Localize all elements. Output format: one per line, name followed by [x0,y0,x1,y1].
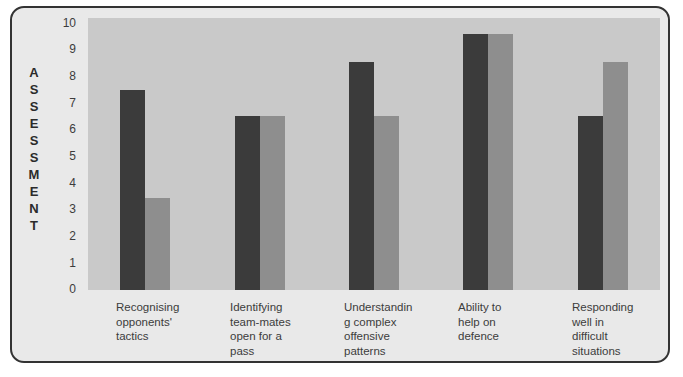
x-category-label-line: difficult [572,329,658,344]
y-axis-title-letter: M [22,166,46,183]
y-axis-title-letter: E [22,183,46,200]
x-category-label-line: Responding [572,300,658,315]
x-category-label-line: g complex [344,315,430,330]
bar-2-category-3 [374,116,399,290]
y-axis-title-letter: T [22,217,46,234]
x-category-label: Ability tohelp ondefence [458,300,544,344]
bar-2-category-4 [488,34,513,290]
y-tick-label: 7 [50,97,76,109]
x-category-label-line: Recognising [116,300,202,315]
y-tick-label: 3 [50,203,76,215]
y-axis-title-letter: S [22,149,46,166]
y-axis-title: A S S E S S M E N T [22,64,46,234]
y-tick-label: 6 [50,123,76,135]
bar-2-category-2 [260,116,285,290]
bar-1-category-4 [463,34,488,290]
y-axis-title-letter: A [22,64,46,81]
bar-1-category-5 [578,116,603,290]
y-tick-label: 1 [50,257,76,269]
y-axis-title-letter: S [22,98,46,115]
x-category-label-line: Ability to [458,300,544,315]
y-tick-label: 10 [50,17,76,29]
x-category-label-line: situations [572,344,658,359]
y-tick-label: 8 [50,70,76,82]
x-category-label-line: Identifying [230,300,316,315]
bar-1-category-1 [120,90,145,290]
x-category-label-line: opponents' [116,315,202,330]
y-tick-label: 9 [50,43,76,55]
x-category-label-line: help on [458,315,544,330]
x-category-label: Recognisingopponents'tactics [116,300,202,344]
x-category-label-line: pass [230,344,316,359]
x-category-label: Understanding complexoffensivepatterns [344,300,430,358]
bar-2-category-5 [603,62,628,290]
y-tick-label: 4 [50,177,76,189]
y-axis-title-letter: S [22,81,46,98]
y-tick-label: 0 [50,283,76,295]
x-category-label-line: defence [458,329,544,344]
y-axis-title-letter: N [22,200,46,217]
x-category-label: Identifyingteam-matesopen for apass [230,300,316,358]
plot-area [88,18,660,290]
x-category-label-line: patterns [344,344,430,359]
y-axis-title-letter: S [22,132,46,149]
y-tick-label: 5 [50,150,76,162]
x-category-label-line: tactics [116,329,202,344]
bar-1-category-2 [235,116,260,290]
y-axis-title-letter: E [22,115,46,132]
bar-1-category-3 [349,62,374,290]
bar-2-category-1 [145,198,170,290]
y-tick-label: 2 [50,230,76,242]
x-category-label-line: well in [572,315,658,330]
x-category-label-line: open for a [230,329,316,344]
chart-figure: A S S E S S M E N T 10 9 8 7 6 5 4 3 2 1… [0,0,683,377]
x-category-label: Respondingwell indifficultsituations [572,300,658,358]
x-category-label-line: Understandin [344,300,430,315]
x-category-label-line: team-mates [230,315,316,330]
x-category-label-line: offensive [344,329,430,344]
